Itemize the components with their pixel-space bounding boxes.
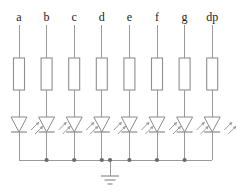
led-triangle-g: [177, 117, 193, 132]
pin-label-b: b: [44, 10, 50, 24]
branch-f: [149, 25, 181, 160]
junction-dot-e: [127, 158, 131, 162]
resistor-b[interactable]: [41, 58, 52, 90]
pin-label-dp: dp: [206, 10, 218, 24]
branch-b: [39, 25, 71, 160]
led-dp[interactable]: [204, 117, 236, 134]
common-cathode-bus: [19, 158, 212, 162]
resistor-e[interactable]: [124, 58, 135, 90]
resistor-a[interactable]: [14, 58, 25, 90]
junction-dot-ground: [108, 158, 112, 162]
junction-dot-d: [100, 158, 104, 162]
pin-label-a: a: [16, 10, 21, 24]
led-triangle-a: [11, 117, 27, 132]
led-triangle-b: [39, 117, 55, 132]
ground-layer: [101, 158, 119, 184]
junction-dot-b: [45, 158, 49, 162]
junction-dot-g: [183, 158, 187, 162]
junction-dot-c: [72, 158, 76, 162]
resistor-g[interactable]: [179, 58, 190, 90]
branch-g: [177, 25, 209, 160]
pin-label-c: c: [72, 10, 77, 24]
pin-label-e: e: [127, 10, 132, 24]
resistor-dp[interactable]: [207, 58, 218, 90]
pin-label-d: d: [99, 10, 105, 24]
branch-dp: [204, 25, 236, 160]
resistor-f[interactable]: [152, 58, 163, 90]
resistor-d[interactable]: [96, 58, 107, 90]
ground-symbol: [101, 158, 119, 184]
led-triangle-d: [94, 117, 110, 132]
branch-c: [66, 25, 98, 160]
led-c[interactable]: [66, 117, 98, 134]
branch-a: [11, 25, 43, 160]
schematic-canvas: abcdefgdp: [0, 0, 237, 194]
branch-e: [121, 25, 153, 160]
branch-d: [94, 25, 126, 160]
branch-layer: [11, 25, 236, 160]
led-a[interactable]: [11, 117, 43, 134]
led-f[interactable]: [149, 117, 181, 134]
pin-label-f: f: [155, 10, 159, 24]
circuit-schematic-svg: [0, 0, 237, 194]
led-d[interactable]: [94, 117, 126, 134]
led-g[interactable]: [177, 117, 209, 134]
led-triangle-e: [121, 117, 137, 132]
pin-label-g: g: [182, 10, 188, 24]
led-triangle-f: [149, 117, 165, 132]
led-b[interactable]: [39, 117, 71, 134]
resistor-c[interactable]: [69, 58, 80, 90]
led-e[interactable]: [121, 117, 153, 134]
led-triangle-dp: [204, 117, 220, 132]
junction-dot-f: [155, 158, 159, 162]
led-triangle-c: [66, 117, 82, 132]
